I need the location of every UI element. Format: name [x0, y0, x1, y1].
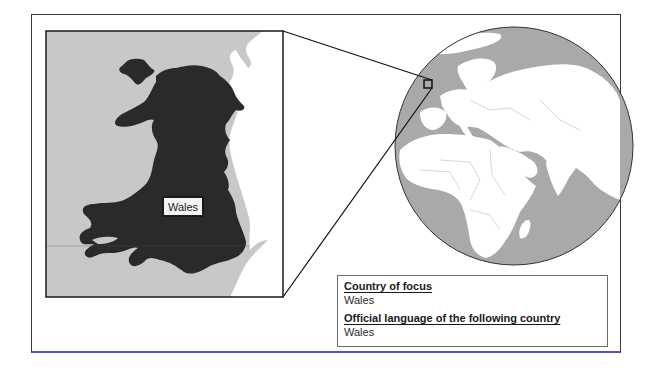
country-of-focus-heading: Country of focus: [344, 279, 607, 293]
inset-map: [46, 31, 283, 297]
wales-label: Wales: [162, 196, 204, 217]
official-language-value: Wales: [344, 325, 607, 340]
callout-line-top: [283, 31, 432, 80]
country-of-focus-value: Wales: [344, 293, 607, 308]
info-box: Country of focus Wales Official language…: [337, 275, 608, 347]
official-language-heading: Official language of the following count…: [344, 311, 607, 325]
globe: [395, 27, 633, 265]
wales-label-text: Wales: [168, 201, 198, 213]
